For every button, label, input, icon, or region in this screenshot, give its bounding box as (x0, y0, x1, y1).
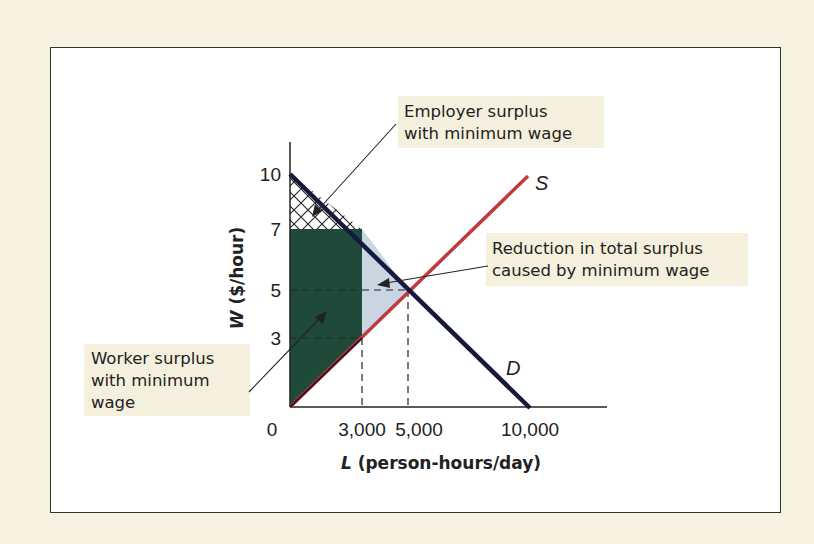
y-tick-7: 7 (270, 219, 281, 240)
worker-surplus-region (290, 229, 362, 407)
x-axis-title: L (person-hours/day) (341, 453, 541, 473)
employer-label-line2: with minimum wage (404, 124, 572, 143)
reduction-label-line1: Reduction in total surplus (492, 239, 703, 258)
supply-label: S (535, 172, 549, 194)
employer-leader (312, 124, 396, 217)
x-tick-5000: 5,000 (395, 419, 443, 440)
x-tick-0: 0 (267, 419, 278, 440)
worker-label-line3: wage (91, 393, 135, 412)
worker-label-line2: with minimum (91, 371, 210, 390)
chart-svg: S D 10 7 5 3 0 3,000 5,000 10,000 L (per… (0, 0, 814, 544)
x-tick-3000: 3,000 (338, 419, 386, 440)
employer-label-line1: Employer surplus (404, 102, 548, 121)
y-axis-title: W ($/hour) (227, 227, 247, 330)
x-tick-10000: 10,000 (501, 419, 559, 440)
y-tick-5: 5 (270, 280, 281, 301)
worker-label-line1: Worker surplus (91, 349, 214, 368)
demand-label: D (506, 357, 520, 379)
reduction-label-line2: caused by minimum wage (492, 261, 709, 280)
y-tick-10: 10 (260, 164, 281, 185)
y-tick-3: 3 (270, 328, 281, 349)
